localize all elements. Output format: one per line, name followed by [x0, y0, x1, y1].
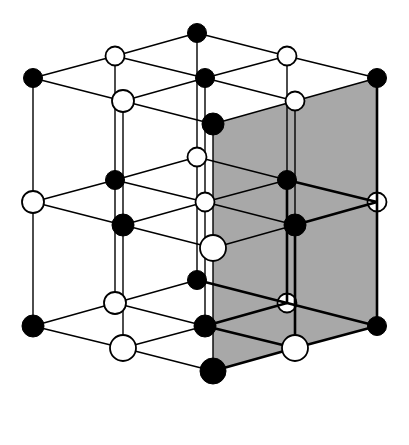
lattice-bond	[115, 33, 197, 56]
lattice-node-cation	[112, 214, 134, 236]
lattice-node-anion	[278, 47, 297, 66]
lattice-bond	[115, 157, 197, 180]
lattice-node-anion	[200, 235, 226, 261]
lattice-bond	[115, 280, 197, 303]
lattice-bond	[115, 56, 205, 78]
lattice-bond	[123, 78, 205, 101]
lattice-node-cation	[196, 69, 215, 88]
lattice-node-anion	[188, 148, 207, 167]
lattice-node-cation	[284, 214, 306, 236]
lattice-bond	[205, 56, 287, 78]
lattice-bond	[197, 33, 287, 56]
lattice-node-cation	[194, 315, 216, 337]
lattice-node-anion	[110, 335, 136, 361]
lattice-bond	[115, 180, 205, 202]
lattice-node-cation	[22, 315, 44, 337]
lattice-figure	[0, 0, 409, 445]
lattice-node-cation	[200, 358, 226, 384]
lattice-bond	[123, 101, 213, 124]
lattice-node-anion	[286, 92, 305, 111]
lattice-bond	[115, 303, 205, 326]
lattice-node-anion	[106, 47, 125, 66]
lattice-node-cation	[188, 24, 207, 43]
lattice-canvas	[0, 0, 409, 445]
lattice-bond	[33, 202, 123, 225]
lattice-node-cation	[202, 113, 224, 135]
lattice-bond	[33, 303, 115, 326]
lattice-node-cation	[106, 171, 125, 190]
lattice-bond	[33, 180, 115, 202]
lattice-node-anion	[104, 292, 126, 314]
lattice-node-cation	[24, 69, 43, 88]
lattice-bond	[123, 225, 213, 248]
lattice-bond	[123, 202, 205, 225]
lattice-node-anion	[22, 191, 44, 213]
lattice-node-anion	[196, 193, 215, 212]
lattice-node-anion	[282, 335, 308, 361]
lattice-bond	[123, 348, 213, 371]
lattice-bond	[33, 56, 115, 78]
lattice-node-anion	[112, 90, 134, 112]
lattice-bond	[33, 78, 123, 101]
lattice-bond	[287, 56, 377, 78]
lattice-bond	[205, 78, 295, 101]
